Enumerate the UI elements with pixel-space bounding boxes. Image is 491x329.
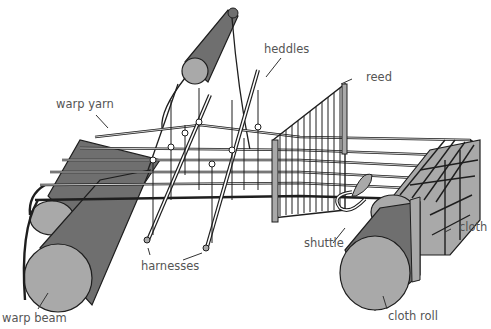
label-heddles: heddles bbox=[264, 44, 309, 56]
label-shuttle: shuttle bbox=[304, 238, 344, 250]
label-reed: reed bbox=[366, 72, 392, 84]
label-warp-beam: warp beam bbox=[2, 313, 67, 325]
label-cloth: cloth bbox=[459, 222, 487, 234]
shuttle bbox=[337, 174, 372, 210]
top-roller bbox=[182, 8, 238, 84]
cloth-roll bbox=[340, 197, 420, 310]
label-cloth-roll: cloth roll bbox=[388, 311, 438, 323]
loom-diagram bbox=[0, 0, 491, 329]
label-harnesses: harnesses bbox=[141, 261, 199, 273]
label-warp-yarn: warp yarn bbox=[56, 99, 114, 111]
